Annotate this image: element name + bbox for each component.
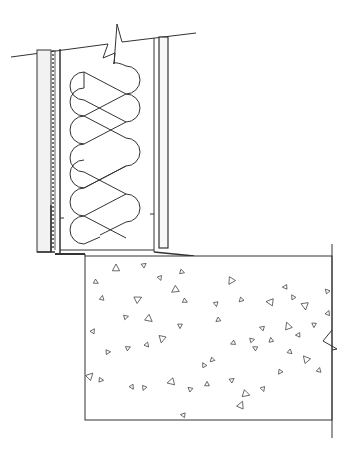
concrete-foundation	[85, 244, 332, 438]
exterior-cladding-layer	[37, 50, 51, 252]
air-barrier-membrane	[51, 50, 55, 252]
drawing-svg	[0, 0, 352, 457]
section-drawing	[0, 0, 352, 457]
interior-finish-board	[159, 37, 168, 248]
cavity-ticks	[60, 214, 154, 218]
batt-insulation	[70, 63, 140, 244]
